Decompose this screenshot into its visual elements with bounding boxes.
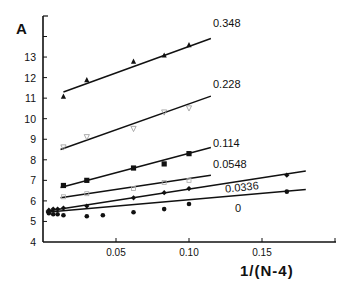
- series-markers: [61, 42, 192, 99]
- y-tick-label: 5: [18, 215, 36, 227]
- fit-line: [46, 171, 306, 211]
- fit-line: [61, 96, 211, 149]
- y-tick-label: 12: [18, 72, 36, 84]
- fit-lines: [46, 39, 306, 213]
- y-tick-label: 11: [18, 92, 36, 104]
- series-label: 0.228: [213, 78, 241, 90]
- y-tick-label: 10: [18, 113, 36, 125]
- y-tick-label: 7: [18, 174, 36, 186]
- x-tick-label: 0.15: [242, 247, 282, 258]
- y-tick-label: 8: [18, 154, 36, 166]
- y-tick-label: 4: [18, 236, 36, 248]
- y-tick-label: 13: [18, 51, 36, 63]
- y-tick-label: 6: [18, 195, 36, 207]
- series-markers: [61, 106, 192, 150]
- series-label: 0.348: [213, 17, 241, 29]
- x-tick-label: 0.10: [169, 247, 209, 258]
- series-label: 0.0548: [213, 158, 247, 170]
- x-tick-label: 0.05: [96, 247, 136, 258]
- series-label: 0.114: [213, 137, 240, 149]
- plot-area: [0, 0, 352, 287]
- x-axis-label: 1/(N-4): [240, 262, 294, 279]
- series-label: 0: [235, 202, 241, 214]
- y-tick-label: 9: [18, 133, 36, 145]
- panel-label: A: [16, 20, 27, 37]
